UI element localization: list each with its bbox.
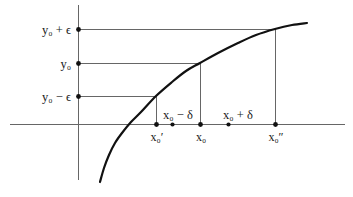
- label-x0-plus-delta: x₀ + δ: [223, 108, 253, 122]
- epsilon-delta-figure: y₀ + ϵ y₀ y₀ − ϵ x₀ − δ x₀ + δ x₀′ x₀ x₀…: [0, 0, 353, 197]
- dot-x0-double-prime: [273, 122, 278, 127]
- label-x0: x₀: [196, 130, 206, 144]
- label-x0-double-prime: x₀″: [268, 130, 283, 144]
- label-y0-minus-epsilon: y₀ − ϵ: [42, 90, 71, 104]
- dot-y0: [76, 61, 81, 66]
- dot-x0-plus-delta: [226, 122, 230, 126]
- label-y0: y₀: [60, 57, 71, 71]
- dot-y0-minus-epsilon: [76, 94, 81, 99]
- figure-container: y₀ + ϵ y₀ y₀ − ϵ x₀ − δ x₀ + δ x₀′ x₀ x₀…: [0, 0, 353, 197]
- label-x0-prime: x₀′: [151, 130, 164, 144]
- dot-x0-minus-delta: [170, 122, 174, 126]
- label-y0-plus-epsilon: y₀ + ϵ: [42, 23, 71, 37]
- dot-x0-prime: [154, 122, 159, 127]
- dot-y0-plus-epsilon: [76, 27, 81, 32]
- label-x0-minus-delta: x₀ − δ: [163, 108, 193, 122]
- dot-x0: [198, 122, 203, 127]
